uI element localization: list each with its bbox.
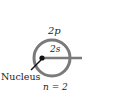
quantum-number-label: n = 2 [43, 83, 68, 92]
shell-label-2p: 2p [48, 26, 61, 36]
nucleus-dot [39, 55, 44, 60]
inner-label-2s: 2s [50, 45, 60, 54]
nucleus-label: Nucleus [1, 72, 40, 82]
